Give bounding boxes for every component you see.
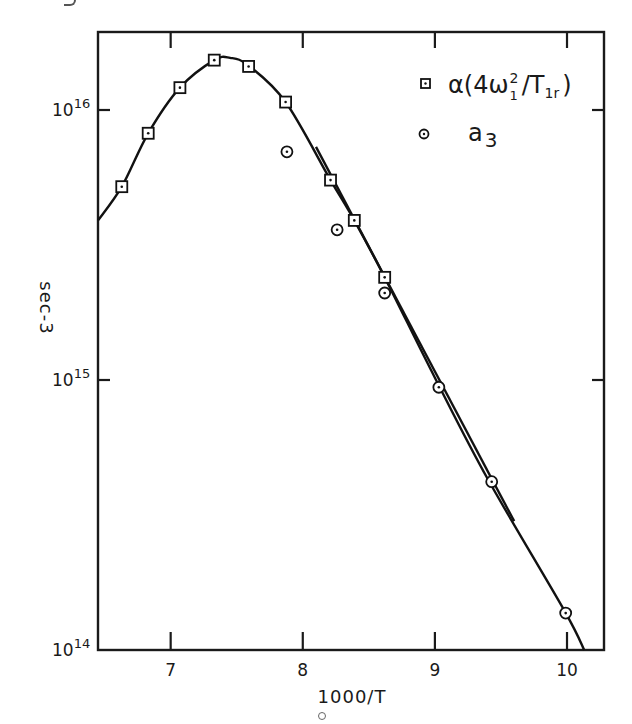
legend-label-alpha: α(4ω21/T1r) [448, 70, 572, 103]
a3-fit-line [316, 147, 514, 521]
x-tick-label: 7 [165, 660, 176, 680]
chart: 78910 101410151016 1000/T sec-3 α(4ω21/T… [0, 0, 632, 724]
legend: α(4ω21/T1r) a3 [420, 70, 572, 152]
axis-ticks [98, 32, 604, 650]
y-tick-label: 1016 [52, 96, 90, 120]
y-tick-label: 1015 [52, 366, 90, 390]
x-tick-label: 9 [429, 660, 440, 680]
x-tick-label: 10 [556, 660, 578, 680]
legend-item-alpha: α(4ω21/T1r) [421, 70, 572, 103]
y-tick-label: 1014 [52, 636, 90, 660]
y-axis-label: sec-3 [36, 281, 57, 334]
data-points [116, 55, 571, 619]
alpha-fit-curve [98, 57, 584, 650]
x-tick-label: 8 [297, 660, 308, 680]
plot-frame [98, 32, 604, 650]
legend-label-a3: a3 [468, 119, 497, 152]
legend-item-a3: a3 [420, 119, 498, 152]
y-tick-labels: 101410151016 [52, 96, 90, 660]
fit-curves [98, 57, 584, 650]
x-axis-label: 1000/T [318, 686, 387, 707]
x-tick-labels: 78910 [165, 660, 578, 680]
